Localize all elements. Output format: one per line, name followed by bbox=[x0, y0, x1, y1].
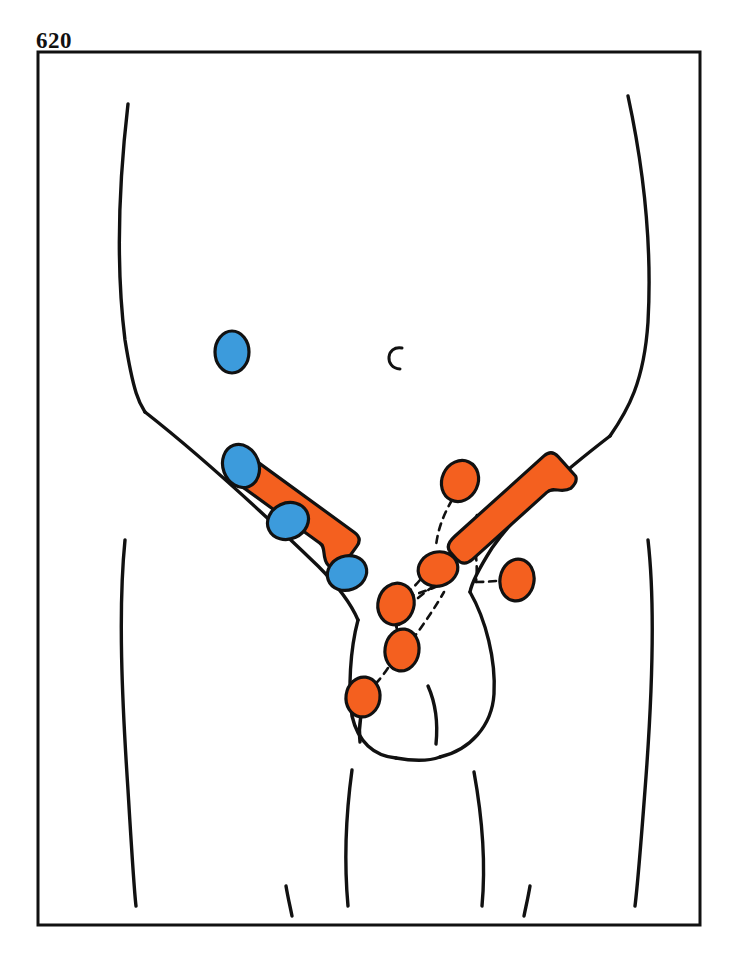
figure-frame-border bbox=[38, 52, 700, 925]
anatomical-figure bbox=[0, 0, 731, 966]
page-canvas: 620 bbox=[0, 0, 731, 966]
blue-node-1 bbox=[215, 331, 249, 373]
